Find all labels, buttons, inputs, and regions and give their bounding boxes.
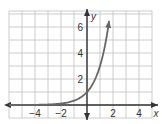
x-axis-label: x	[153, 108, 160, 119]
x-tick-label: 2	[110, 108, 116, 119]
y-tick-label: 6	[77, 22, 83, 33]
x-tick-label: −2	[55, 108, 67, 119]
y-tick-label: 4	[77, 48, 83, 59]
y-axis-arrow-down-icon	[84, 113, 90, 120]
y-tick-label: 2	[77, 74, 83, 85]
y-axis-label: y	[90, 11, 97, 22]
x-tick-label: −4	[29, 108, 41, 119]
x-tick-label: 4	[136, 108, 142, 119]
y-axis-arrow-up-icon	[84, 9, 90, 16]
exponential-graph: −4−224246 x y	[0, 0, 162, 124]
